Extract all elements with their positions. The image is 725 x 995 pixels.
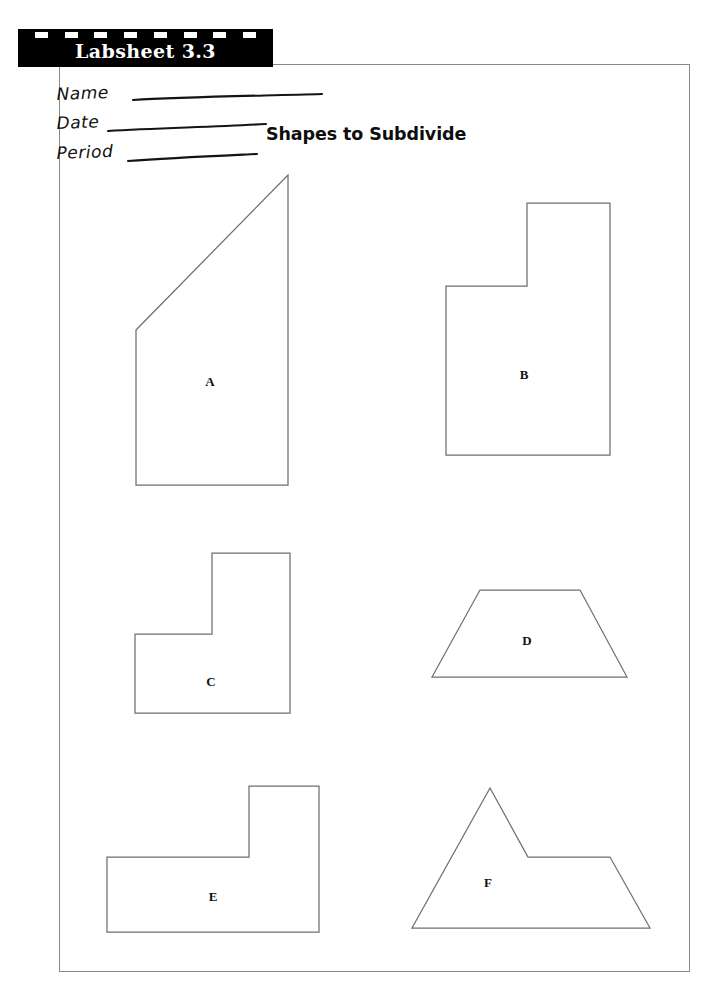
labsheet-title: Labsheet 3.3 — [18, 38, 273, 64]
shape-label-f: F — [484, 875, 492, 891]
shape-label-d: D — [522, 633, 531, 649]
handwritten-name-label: Name — [56, 82, 109, 104]
shape-label-e: E — [209, 889, 218, 905]
page-border — [59, 64, 690, 972]
labsheet-banner: Labsheet 3.3 — [18, 29, 273, 67]
shape-label-b: B — [520, 367, 529, 383]
shape-label-a: A — [205, 374, 214, 390]
worksheet-page: Labsheet 3.3 Name Date Period Shapes to … — [0, 0, 725, 995]
handwritten-period-label: Period — [56, 141, 113, 163]
handwritten-date-label: Date — [56, 111, 99, 133]
page-title: Shapes to Subdivide — [266, 124, 466, 144]
shape-label-c: C — [206, 674, 215, 690]
